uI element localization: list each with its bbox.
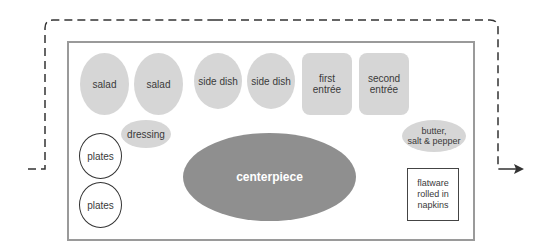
dish-label: plates: [87, 200, 114, 211]
butter-salt-pepper-dish: butter, salt & pepper: [402, 120, 466, 152]
dish-label: dressing: [127, 129, 165, 140]
centerpiece-label: centerpiece: [236, 172, 303, 183]
side-dish-1: side dish: [194, 53, 242, 109]
dish-label-line: second: [368, 73, 400, 84]
centerpiece: centerpiece: [183, 133, 356, 221]
dish-label: salad: [147, 79, 171, 90]
dish-label-line: first: [319, 73, 335, 84]
salad-dish-1: salad: [80, 53, 129, 115]
plates-stack-1: plates: [79, 133, 122, 179]
dish-label-line: rolled in: [417, 189, 449, 200]
first-entree-dish: first entrée: [302, 53, 352, 115]
dish-label-line: entrée: [370, 84, 398, 95]
dish-label-line: salt & pepper: [407, 136, 460, 146]
dressing-dish: dressing: [121, 120, 171, 148]
dish-label-line: entrée: [313, 84, 341, 95]
plates-stack-2: plates: [79, 182, 122, 228]
dish-label: salad: [93, 79, 117, 90]
dish-label: side dish: [251, 76, 290, 87]
dish-label-line: butter,: [421, 126, 446, 136]
dish-label: side dish: [198, 76, 237, 87]
flatware-box: flatware rolled in napkins: [407, 168, 459, 221]
dish-label-line: flatware: [417, 178, 449, 189]
side-dish-2: side dish: [247, 53, 295, 109]
dish-label: plates: [87, 151, 114, 162]
dish-label-line: napkins: [417, 200, 448, 211]
salad-dish-2: salad: [134, 53, 183, 115]
second-entree-dish: second entrée: [359, 53, 409, 115]
arrow-right-icon: [505, 164, 524, 174]
